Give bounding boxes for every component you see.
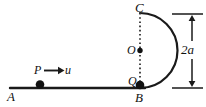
semicircular-loop-arc (140, 13, 178, 88)
label-center-o: O (127, 44, 136, 56)
velocity-arrow-icon (44, 67, 65, 74)
label-diameter-2a: 2a (181, 43, 194, 56)
label-point-a: A (7, 90, 15, 103)
label-particle-p: P (34, 64, 41, 76)
physics-diagram-figure: A B C O Q P u 2a (0, 0, 206, 107)
diagram-canvas (0, 0, 206, 107)
label-point-b: B (135, 91, 143, 104)
particle-p-marker (36, 80, 45, 89)
label-velocity-u: u (65, 64, 71, 76)
center-point-marker (137, 48, 142, 53)
label-point-q: Q (128, 75, 137, 87)
label-point-c: C (135, 1, 144, 14)
